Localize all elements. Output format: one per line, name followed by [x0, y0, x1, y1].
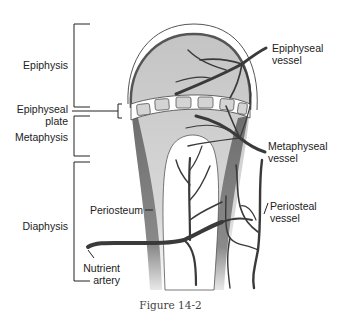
label-metaphyseal-vessel-line2: vessel: [268, 152, 328, 164]
label-diaphysis: Diaphysis: [0, 220, 68, 232]
label-epiphyseal-plate-line2: plate: [0, 115, 68, 127]
label-nutrient-artery-line2: artery: [60, 274, 120, 286]
label-epiphyseal-plate: Epiphyseal plate: [0, 103, 68, 127]
metaphysis-bracket: [74, 116, 90, 156]
label-metaphysis: Metaphysis: [0, 131, 68, 143]
label-metaphyseal-vessel: Metaphyseal vessel: [268, 140, 328, 164]
label-nutrient-artery: Nutrient artery: [60, 262, 120, 286]
label-periosteal-vessel-line1: Periosteal: [270, 200, 317, 212]
epiphysis-bracket: [74, 24, 90, 107]
label-epiphyseal-vessel-line1: Epiphyseal: [272, 42, 323, 54]
label-epiphyseal-vessel-line2: vessel: [272, 54, 323, 66]
label-nutrient-artery-line1: Nutrient: [60, 262, 120, 274]
nutrient-artery-pointer: [88, 250, 94, 258]
label-periosteum: Periosteum: [60, 204, 143, 216]
label-periosteal-vessel-line2: vessel: [270, 212, 317, 224]
label-epiphyseal-plate-line1: Epiphyseal: [0, 103, 68, 115]
label-epiphyseal-vessel: Epiphyseal vessel: [272, 42, 323, 66]
periosteal-vessel: [253, 160, 262, 288]
label-periosteal-vessel: Periosteal vessel: [270, 200, 317, 224]
label-metaphyseal-vessel-line1: Metaphyseal: [268, 140, 328, 152]
figure-caption: Figure 14-2: [0, 299, 341, 311]
label-epiphysis: Epiphysis: [0, 59, 68, 71]
periosteal-vessel-pointer: [264, 203, 268, 214]
